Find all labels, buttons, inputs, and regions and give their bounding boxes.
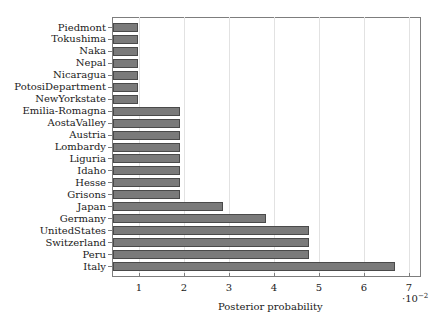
y-category-label: Nepal (76, 57, 106, 69)
y-category-label: PotosiDepartment (14, 81, 106, 93)
bar-germany (113, 214, 266, 223)
x-tick-label: 5 (309, 282, 329, 293)
y-tick (108, 218, 112, 219)
x-tick-label: 6 (354, 282, 374, 293)
y-category-label: Austria (69, 129, 106, 141)
y-tick (108, 63, 112, 64)
y-category-label: Switzerland (45, 237, 106, 249)
y-tick (108, 158, 112, 159)
y-tick (108, 51, 112, 52)
x-tick-label: 3 (219, 282, 239, 293)
x-axis-title: Posterior probability (218, 301, 323, 312)
y-tick (108, 111, 112, 112)
y-tick (108, 170, 112, 171)
bar-newyorkstate (113, 95, 138, 104)
y-tick (108, 75, 112, 76)
y-tick (108, 254, 112, 255)
bar-hesse (113, 178, 180, 187)
bar-grisons (113, 190, 180, 199)
bar-potosidepartment (113, 83, 138, 92)
x-tick (139, 273, 140, 277)
y-tick (108, 39, 112, 40)
y-category-label: Nicaragua (53, 69, 106, 81)
y-category-label: AostaValley (47, 117, 106, 129)
y-category-label: Emilia-Romagna (22, 105, 106, 117)
bar-liguria (113, 154, 180, 163)
bar-nepal (113, 59, 138, 68)
x-tick-label: 4 (264, 282, 284, 293)
y-tick (108, 87, 112, 88)
x-tick-label: 2 (174, 282, 194, 293)
bar-austria (113, 131, 180, 140)
x-tick (274, 273, 275, 277)
x-tick (229, 273, 230, 277)
bar-japan (113, 202, 223, 211)
bar-unitedstates (113, 226, 309, 235)
x-tick (319, 273, 320, 277)
y-category-label: Liguria (69, 153, 106, 165)
bar-tokushima (113, 35, 138, 44)
y-category-label: Naka (79, 45, 106, 57)
bar-aostavalley (113, 119, 180, 128)
y-category-label: Tokushima (51, 33, 106, 45)
y-category-label: NewYorkstate (35, 93, 106, 105)
gridline (319, 17, 320, 277)
y-category-label: Lombardy (55, 141, 106, 153)
y-tick (108, 230, 112, 231)
y-category-label: Italy (83, 261, 106, 273)
y-tick (108, 135, 112, 136)
y-tick (108, 266, 112, 267)
y-category-label: UnitedStates (40, 225, 106, 237)
y-tick (108, 242, 112, 243)
posterior-probability-bar-chart: PiedmontTokushimaNakaNepalNicaraguaPotos… (0, 0, 443, 327)
bar-nicaragua (113, 71, 138, 80)
bar-peru (113, 250, 309, 259)
bar-switzerland (113, 238, 309, 247)
y-tick (108, 182, 112, 183)
y-category-label: Idaho (77, 165, 106, 177)
gridline (409, 17, 410, 277)
bar-lombardy (113, 143, 180, 152)
bar-idaho (113, 166, 180, 175)
bar-naka (113, 47, 138, 56)
y-tick (108, 123, 112, 124)
y-tick (108, 147, 112, 148)
bar-emilia-romagna (113, 107, 180, 116)
x-tick (409, 273, 410, 277)
y-tick (108, 99, 112, 100)
y-category-label: Germany (60, 213, 106, 225)
y-category-label: Grisons (67, 189, 106, 201)
x-tick (184, 273, 185, 277)
bar-piedmont (113, 23, 138, 32)
y-tick (108, 194, 112, 195)
y-tick (108, 206, 112, 207)
gridline (364, 17, 365, 277)
bar-italy (113, 262, 395, 271)
x-tick-label: 1 (129, 282, 149, 293)
x-axis-multiplier: ·10−2 (402, 292, 428, 304)
y-tick (108, 27, 112, 28)
y-category-label: Peru (83, 249, 106, 261)
x-tick (364, 273, 365, 277)
y-category-label: Japan (77, 201, 106, 213)
y-category-label: Hesse (75, 177, 106, 189)
